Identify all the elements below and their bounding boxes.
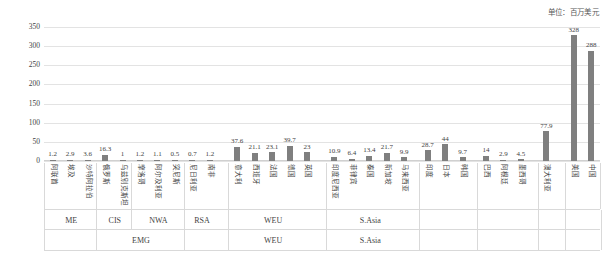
bar[interactable]: [442, 144, 448, 161]
bar[interactable]: [50, 160, 56, 162]
bar-slot[interactable]: 16.3: [96, 27, 113, 161]
group-label-s-asia: S.Asia: [326, 230, 414, 250]
y-axis-tick: 350: [29, 23, 40, 31]
bar[interactable]: [518, 159, 524, 161]
bar[interactable]: [349, 159, 355, 161]
bar-value-label: 44: [442, 136, 449, 143]
bar-slot[interactable]: 44: [436, 27, 453, 161]
category-label: 印度尼西亚: [331, 164, 338, 199]
bar-slot[interactable]: 4.5: [512, 27, 529, 161]
bar-value-label: 0.5: [170, 151, 179, 158]
bar-slot[interactable]: 9.7: [454, 27, 471, 161]
bar[interactable]: [269, 152, 275, 161]
category-label: 阿联酋: [49, 164, 56, 185]
bar[interactable]: [120, 160, 126, 162]
bar[interactable]: [207, 160, 213, 162]
group-cell-empty: [538, 210, 556, 230]
bar[interactable]: [102, 155, 108, 161]
bar[interactable]: [331, 157, 337, 161]
bar-slot[interactable]: 13.4: [361, 27, 378, 161]
plot-area: 050100150200250300350 1.22.93.616.311.21…: [44, 27, 600, 161]
bar-slot[interactable]: 21.1: [246, 27, 263, 161]
bar-slot[interactable]: 37.6: [228, 27, 245, 161]
bar-value-label: 23: [303, 144, 310, 151]
bar-slot[interactable]: 0.7: [184, 27, 201, 161]
bar-value-label: 2.9: [66, 151, 75, 158]
group-separator: [44, 163, 45, 209]
y-axis-tick: 50: [33, 138, 41, 146]
bar-value-label: 1.2: [48, 151, 57, 158]
bar-slot[interactable]: 39.7: [281, 27, 298, 161]
bar[interactable]: [172, 160, 178, 162]
bar[interactable]: [384, 153, 390, 161]
category-label: 尼日利亚: [189, 164, 196, 192]
category-label-slot: 南非: [201, 163, 218, 209]
y-axis-tick: 100: [29, 119, 40, 127]
group-separator: [477, 163, 478, 209]
bar-slot[interactable]: 0.5: [166, 27, 183, 161]
bar[interactable]: [588, 51, 594, 161]
bar[interactable]: [154, 160, 160, 162]
category-label: 韩国: [459, 164, 466, 178]
bar-slot[interactable]: 1.2: [131, 27, 148, 161]
bar[interactable]: [500, 160, 506, 162]
bar[interactable]: [483, 156, 489, 161]
category-label-slot: 美国: [565, 163, 582, 209]
bar-slot[interactable]: 1: [114, 27, 131, 161]
category-label-slot: 印度尼西亚: [326, 163, 343, 209]
bar-slot[interactable]: 77.9: [538, 27, 555, 161]
category-label: 西班牙: [251, 164, 258, 185]
bar-slot[interactable]: 9.9: [396, 27, 413, 161]
bar-slot[interactable]: 1.1: [149, 27, 166, 161]
y-axis-tick: 250: [29, 62, 40, 70]
bar[interactable]: [67, 160, 73, 162]
bar[interactable]: [287, 146, 293, 161]
bar-value-label: 39.7: [283, 137, 295, 144]
bar[interactable]: [571, 35, 577, 161]
bar-slot[interactable]: 14: [477, 27, 494, 161]
group-label-cis: CIS: [96, 210, 132, 230]
category-label-slot: 新加坡: [378, 163, 395, 209]
category-label-slot: 韩国: [454, 163, 471, 209]
category-label-slot: 印度: [419, 163, 436, 209]
bar-slot[interactable]: 6.4: [343, 27, 360, 161]
category-label: 日本: [442, 164, 449, 178]
bar-value-label: 1.1: [153, 151, 162, 158]
bar-value-label: 14: [483, 147, 490, 154]
category-label-slot: 澳大利亚: [538, 163, 555, 209]
bar-slot[interactable]: 328: [565, 27, 582, 161]
bar-slot[interactable]: 10.9: [326, 27, 343, 161]
category-label: 英国: [303, 164, 310, 178]
category-label: 泰国: [366, 164, 373, 178]
bar[interactable]: [401, 157, 407, 161]
group-separator: [184, 163, 185, 209]
bar-slot[interactable]: 21.7: [378, 27, 395, 161]
unit-caption: 单位：百万美元: [548, 6, 599, 17]
bar-slot[interactable]: 23.1: [263, 27, 280, 161]
bar[interactable]: [252, 153, 258, 161]
category-label: 马来西亚: [401, 164, 408, 192]
bar[interactable]: [234, 147, 240, 161]
bar-slot[interactable]: 2.9: [495, 27, 512, 161]
bar[interactable]: [460, 157, 466, 161]
bar-slot[interactable]: 288: [583, 27, 600, 161]
group-label-weu: WEU: [228, 210, 316, 230]
bar[interactable]: [366, 156, 372, 161]
bar[interactable]: [543, 131, 549, 161]
bar[interactable]: [304, 152, 310, 161]
bar-slot[interactable]: 28.7: [419, 27, 436, 161]
bar[interactable]: [189, 160, 195, 162]
group-separator: [326, 163, 327, 209]
bar[interactable]: [137, 160, 143, 162]
bar-slot[interactable]: 3.6: [79, 27, 96, 161]
group-cell-empty: [184, 230, 220, 250]
group-label-me: ME: [44, 210, 97, 230]
bar-slot[interactable]: 2.9: [61, 27, 78, 161]
bar[interactable]: [425, 150, 431, 161]
bar-slot[interactable]: 23: [298, 27, 315, 161]
bar[interactable]: [85, 160, 91, 162]
bar-slot[interactable]: 1.2: [201, 27, 218, 161]
bar-slot[interactable]: 1.2: [44, 27, 61, 161]
category-label-slot: 俄罗斯: [96, 163, 113, 209]
category-label-slot: 阿根廷: [495, 163, 512, 209]
